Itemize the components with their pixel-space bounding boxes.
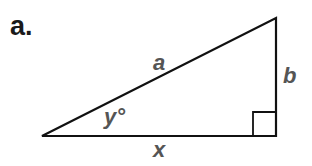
angle-label: y° (104, 106, 125, 128)
right-angle-marker (253, 112, 276, 136)
horizontal-leg-label: x (153, 139, 165, 161)
hypotenuse-label: a (153, 52, 165, 74)
vertical-leg-label: b (283, 65, 296, 87)
problem-label: a. (10, 13, 33, 40)
triangle-outline (42, 18, 276, 136)
